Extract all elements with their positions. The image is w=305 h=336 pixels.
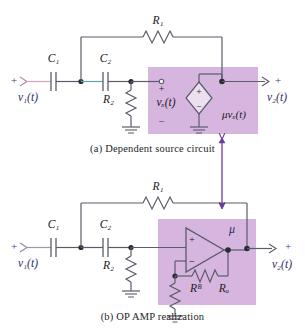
caption-b: (b) OP AMP realization (0, 311, 305, 322)
output-polarity-a: + (275, 74, 281, 86)
r2-resistor-a (126, 90, 136, 116)
figure-root: + v₁(t) C₁ C₂ R₁ R₂ + vₓ(t) − + − μvₓ(t)… (0, 0, 305, 336)
equivalence-arrow-head-down (219, 203, 226, 209)
source-plus-sign-a: + (196, 87, 201, 97)
input-terminal-arrow-b (20, 243, 27, 252)
r2-label-a: R₂ (102, 93, 114, 105)
c1-label-b: C₁ (48, 218, 60, 230)
c2-label-a: C₂ (100, 52, 112, 64)
ground-symbol-r2-a (122, 127, 140, 133)
vx-minus-sign-a: − (159, 116, 165, 127)
input-terminal-arrow-a (20, 77, 27, 86)
source-label-a: μvₓ(t) (221, 108, 246, 121)
output-polarity-b: + (285, 240, 291, 252)
gain-label-b: μ (228, 222, 235, 236)
rb-label-b: Rᴮ (189, 282, 202, 294)
r1-resistor-a (143, 31, 173, 43)
caption-a: (a) Dependent source circuit (0, 143, 305, 154)
input-label-a: v₁(t) (18, 91, 38, 104)
source-minus-sign-a: − (196, 102, 201, 112)
c2-label-b: C₂ (100, 218, 112, 230)
output-node-dot-inner-b (225, 247, 231, 253)
r2-resistor-b (126, 256, 136, 282)
r1-label-b: R₁ (151, 180, 163, 192)
r2-label-b: R₂ (102, 259, 114, 271)
opamp-block (158, 219, 256, 305)
vx-label-a: vₓ(t) (156, 96, 175, 109)
input-polarity-b: + (11, 240, 17, 252)
output-label-a: v₂(t) (267, 91, 287, 104)
input-label-b: v₁(t) (18, 257, 38, 270)
r1-resistor-b (143, 197, 173, 209)
r1-label-a: R₁ (151, 14, 163, 26)
input-polarity-a: + (11, 74, 17, 86)
ground-symbol-r2-b (122, 291, 140, 297)
vx-plus-sign-a: + (159, 83, 165, 94)
opamp-minus-input-label: − (189, 256, 195, 267)
c1-label-a: C₁ (48, 52, 60, 64)
opamp-plus-input-label: + (189, 234, 195, 245)
circuit-diagram: + v₁(t) C₁ C₂ R₁ R₂ + vₓ(t) − + − μvₓ(t)… (0, 0, 305, 336)
panel-b-group (20, 197, 276, 322)
ra-label-b: Rₐ (218, 282, 229, 294)
output-label-b: v₂(t) (272, 258, 292, 271)
